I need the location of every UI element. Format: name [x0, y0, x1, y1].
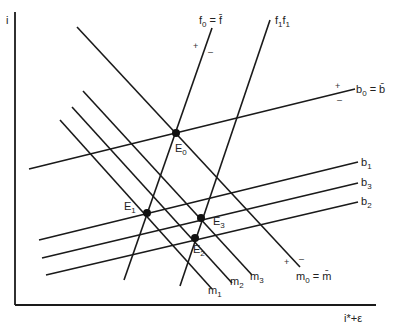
b1-line: [39, 162, 358, 240]
label-b0: b0 = b̄: [356, 83, 385, 98]
m0-minus-sign: –: [299, 254, 304, 264]
m1-line: [60, 120, 212, 289]
economic-diagram: i i*+ε E0 E1 E2 E3 f0 = f̄ + – f1f1 b0 =…: [0, 0, 396, 324]
b2-line: [46, 202, 358, 275]
label-e3: E3: [213, 215, 225, 230]
equilibrium-point-e0: [172, 129, 180, 137]
f0-minus-sign: –: [208, 47, 213, 57]
label-e2: E2: [193, 243, 205, 258]
b0-minus-sign: –: [337, 95, 342, 105]
b0-line: [29, 89, 355, 169]
label-b3: b3: [361, 176, 372, 191]
equilibrium-point-e2: [191, 234, 199, 242]
label-m0: m0 = m̄: [296, 270, 331, 285]
y-axis-label: i: [6, 14, 8, 26]
label-b1: b1: [361, 156, 372, 171]
label-f0: f0 = f̄: [199, 14, 223, 29]
equilibrium-point-e3: [197, 214, 205, 222]
x-axis-label: i*+ε: [344, 312, 362, 324]
equilibrium-point-e1: [143, 209, 151, 217]
b0-plus-sign: +: [335, 81, 340, 91]
label-f1: f1f1: [275, 14, 291, 29]
m0-line: [77, 27, 300, 267]
m3-line: [83, 91, 252, 275]
m0-plus-sign: +: [284, 257, 289, 267]
label-m3: m3: [250, 270, 264, 285]
label-b2: b2: [361, 195, 372, 210]
label-m1: m1: [208, 284, 222, 299]
m2-line: [72, 107, 232, 283]
f0-plus-sign: +: [193, 41, 198, 51]
label-m2: m2: [230, 275, 244, 290]
